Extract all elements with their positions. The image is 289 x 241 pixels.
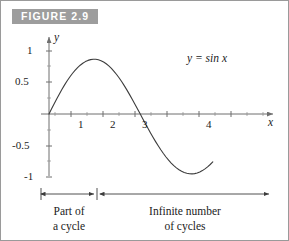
annotation-rules	[41, 188, 269, 200]
sine-curve	[49, 59, 213, 174]
annotation-infinite-number-of-cycles-line1: Infinite number	[125, 204, 245, 219]
annotation-infinite-number-of-cycles: Infinite number of cycles	[125, 204, 245, 234]
x-tick-label-4: 4	[206, 118, 212, 130]
annotation-infinite-number-of-cycles-line2: of cycles	[125, 219, 245, 234]
figure-container: FIGURE 2.9	[0, 0, 289, 241]
curve-equation-label: y = sin x	[187, 52, 227, 64]
annotation-part-of-a-cycle-line2: a cycle	[34, 219, 104, 234]
x-tick-label-3: 3	[142, 118, 148, 130]
y-axis	[46, 37, 52, 177]
y-tick-label-neg-1: -1	[24, 170, 33, 182]
y-axis-label: y	[54, 31, 59, 43]
annotation-part-of-a-cycle-line1: Part of	[34, 204, 104, 219]
y-tick-label-neg-0-5: -0.5	[12, 139, 29, 151]
x-tick-label-1: 1	[78, 118, 84, 130]
x-tick-label-2: 2	[110, 118, 116, 130]
annotation-part-of-a-cycle: Part of a cycle	[34, 204, 104, 234]
x-axis-label: x	[268, 116, 273, 128]
y-tick-label-0-5: 0.5	[15, 75, 29, 87]
y-tick-label-1: 1	[27, 44, 33, 56]
x-axis	[41, 111, 273, 117]
